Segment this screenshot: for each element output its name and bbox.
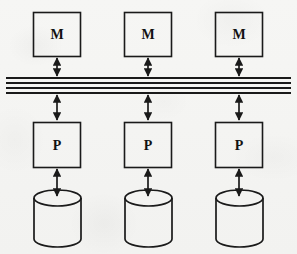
processor-label-1: P bbox=[33, 139, 81, 153]
processor-label-2: P bbox=[124, 139, 172, 153]
architecture-diagram: M M M P P P bbox=[0, 0, 297, 254]
disk-cylinder-3 bbox=[216, 190, 263, 247]
memory-label-2: M bbox=[124, 28, 172, 42]
processor-label-3: P bbox=[215, 139, 263, 153]
storage-row bbox=[34, 190, 263, 247]
disk-cylinder-1 bbox=[34, 190, 81, 247]
memory-to-bus-connectors bbox=[57, 58, 239, 76]
disk-cylinder-2 bbox=[125, 190, 172, 247]
processor-to-disk-connectors bbox=[57, 169, 239, 196]
memory-label-3: M bbox=[215, 28, 263, 42]
bus-to-processor-connectors bbox=[57, 95, 239, 120]
memory-label-1: M bbox=[33, 28, 81, 42]
system-bus bbox=[6, 78, 291, 93]
